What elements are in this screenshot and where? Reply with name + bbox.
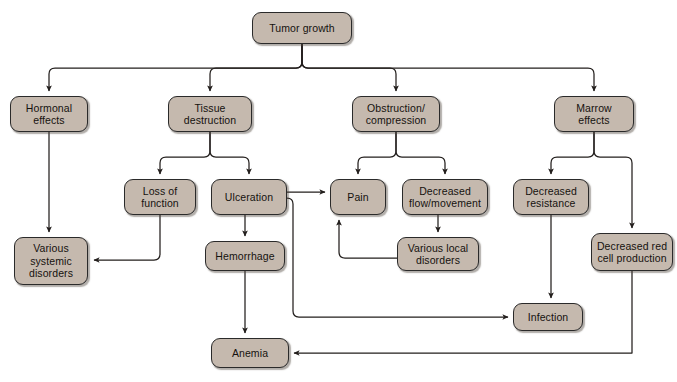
node-label: Anemia xyxy=(232,347,268,359)
node-hormonal-effects[interactable]: Hormonal effects xyxy=(10,96,88,132)
node-tissue-destruction[interactable]: Tissue destruction xyxy=(168,96,252,132)
edge-obstruction-to-pain xyxy=(358,132,396,174)
edge-marrow-to-decreased-rbc xyxy=(594,132,632,228)
edge-obstruction-to-decreased-flow xyxy=(396,132,445,174)
node-decreased-resistance[interactable]: Decreased resistance xyxy=(513,179,589,215)
node-label: Various systemic disorders xyxy=(29,242,73,279)
node-decreased-red-cell-production[interactable]: Decreased red cell production xyxy=(591,233,673,271)
edge-tumor-to-marrow xyxy=(302,44,594,91)
node-label: Ulceration xyxy=(225,191,273,203)
node-pain[interactable]: Pain xyxy=(330,179,386,215)
node-tumor-growth[interactable]: Tumor growth xyxy=(252,12,352,44)
edge-tumor-to-tissue-destruction xyxy=(210,44,302,91)
node-label: Pain xyxy=(347,191,368,203)
node-label: Marrow effects xyxy=(576,102,612,127)
node-loss-of-function[interactable]: Loss of function xyxy=(124,179,196,215)
edge-loss-of-function-to-various-systemic xyxy=(94,215,160,260)
node-label: Infection xyxy=(528,311,569,323)
node-hemorrhage[interactable]: Hemorrhage xyxy=(205,241,285,271)
node-ulceration[interactable]: Ulceration xyxy=(211,179,287,215)
node-marrow-effects[interactable]: Marrow effects xyxy=(554,96,634,132)
node-label: Decreased red cell production xyxy=(597,240,667,265)
node-obstruction-compression[interactable]: Obstruction/ compression xyxy=(352,96,440,132)
edge-tissue-to-loss-of-function xyxy=(160,132,210,174)
node-label: Tumor growth xyxy=(269,22,335,34)
node-label: Loss of function xyxy=(141,185,179,210)
node-decreased-flow-movement[interactable]: Decreased flow/movement xyxy=(402,179,488,215)
node-infection[interactable]: Infection xyxy=(513,303,583,331)
edge-various-local-to-pain xyxy=(339,220,397,258)
node-label: Decreased resistance xyxy=(525,185,577,210)
edge-marrow-to-decreased-resistance xyxy=(551,132,594,174)
node-label: Decreased flow/movement xyxy=(409,185,481,210)
node-anemia[interactable]: Anemia xyxy=(211,338,289,368)
node-label: Hormonal effects xyxy=(26,102,72,127)
edge-tissue-to-ulceration xyxy=(210,132,249,174)
flowchart-canvas: Tumor growth Hormonal effects Tissue des… xyxy=(0,0,677,382)
node-various-local-disorders[interactable]: Various local disorders xyxy=(397,237,479,271)
node-label: Tissue destruction xyxy=(184,102,236,127)
node-label: Various local disorders xyxy=(408,242,469,267)
node-label: Obstruction/ compression xyxy=(366,102,427,127)
node-various-systemic-disorders[interactable]: Various systemic disorders xyxy=(14,237,88,285)
node-label: Hemorrhage xyxy=(215,250,274,262)
